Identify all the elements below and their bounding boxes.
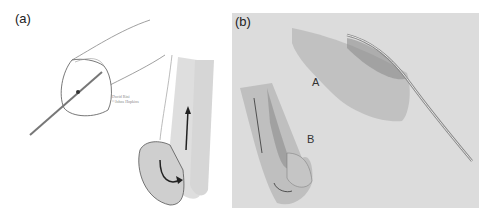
panel-a: (a) David Rini ©Johns Hopkins bbox=[0, 0, 232, 216]
nail-cross-section-illustration bbox=[232, 13, 479, 208]
illustration-credit: David Rini ©Johns Hopkins bbox=[112, 94, 139, 104]
credit-line-2: ©Johns Hopkins bbox=[112, 99, 139, 104]
annotation-b: B bbox=[307, 133, 314, 145]
panel-b: (b) A B bbox=[232, 13, 479, 208]
finger-needle-illustration bbox=[0, 0, 232, 216]
annotation-a: A bbox=[312, 76, 319, 88]
